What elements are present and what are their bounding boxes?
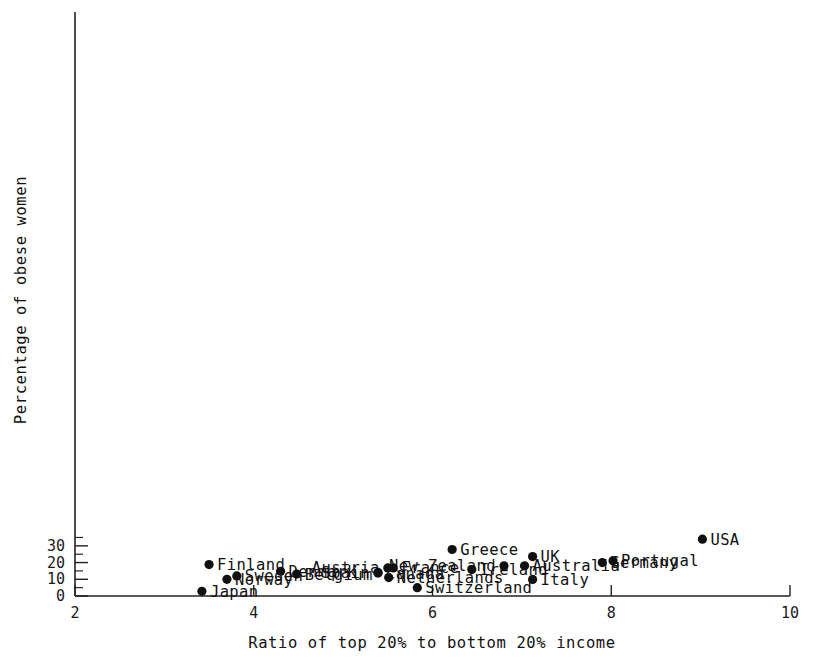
- y-axis-title: Percentage of obese women: [12, 176, 30, 424]
- point-marker: [384, 573, 393, 582]
- y-tick-label: 20: [47, 554, 65, 572]
- chart-canvas: 246810 0102030 USAGreeceUKPortugalGerman…: [0, 0, 822, 665]
- data-point: Japan: [197, 583, 258, 601]
- point-label: Germany: [610, 554, 678, 572]
- y-axis-ticks: [75, 537, 88, 596]
- y-axis-tick-labels: 0102030: [47, 537, 65, 605]
- point-label: Japan: [210, 583, 259, 601]
- point-marker: [197, 587, 206, 596]
- x-tick-label: 4: [249, 604, 258, 622]
- point-label: USA: [710, 531, 739, 549]
- scatter-chart: 246810 0102030 USAGreeceUKPortugalGerman…: [0, 0, 822, 665]
- point-marker: [413, 583, 422, 592]
- y-tick-label: 0: [56, 587, 65, 605]
- data-point: Switzerland: [413, 579, 533, 597]
- y-tick-label: 30: [47, 537, 65, 555]
- x-tick-label: 10: [781, 604, 799, 622]
- point-label: Switzerland: [425, 579, 532, 597]
- data-point: Belgium: [292, 566, 373, 584]
- point-marker: [448, 545, 457, 554]
- y-tick-label: 10: [47, 570, 65, 588]
- x-axis-tick-labels: 246810: [70, 604, 799, 622]
- x-tick-label: 6: [428, 604, 437, 622]
- data-point: USA: [698, 531, 740, 549]
- point-marker: [373, 568, 382, 577]
- x-tick-label: 8: [607, 604, 616, 622]
- data-points-layer: USAGreeceUKPortugalGermanyFinlandNew Zea…: [197, 531, 740, 601]
- point-label: Italy: [541, 571, 590, 589]
- x-tick-label: 2: [70, 604, 79, 622]
- point-label: Belgium: [305, 566, 373, 584]
- point-marker: [698, 535, 707, 544]
- x-axis-title: Ratio of top 20% to bottom 20% income: [248, 634, 615, 652]
- point-marker: [204, 560, 213, 569]
